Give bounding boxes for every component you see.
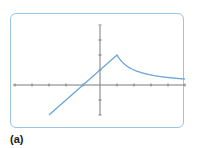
figure-label: (a)	[10, 133, 23, 145]
function-plot	[0, 0, 197, 148]
